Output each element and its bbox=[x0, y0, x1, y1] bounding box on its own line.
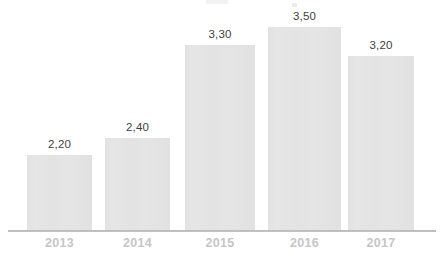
value-label-2015: 3,30 bbox=[185, 28, 255, 40]
value-label-2016: 3,50 bbox=[268, 10, 341, 22]
x-axis-line bbox=[8, 230, 436, 232]
category-label-2014: 2014 bbox=[105, 236, 170, 250]
plot-area: 2,20 2,40 3,30 3,50 3,20 bbox=[0, 0, 444, 231]
bar-2016[interactable] bbox=[268, 27, 341, 231]
bar-group-2016: 3,50 bbox=[268, 0, 341, 231]
category-label-2013: 2013 bbox=[27, 236, 92, 250]
category-label-2015: 2015 bbox=[185, 236, 255, 250]
value-label-2017: 3,20 bbox=[348, 39, 414, 51]
bar-2014[interactable] bbox=[105, 138, 170, 231]
bar-group-2013: 2,20 bbox=[27, 0, 92, 231]
category-label-2017: 2017 bbox=[348, 236, 414, 250]
bar-group-2017: 3,20 bbox=[348, 0, 414, 231]
bar-chart: 2,20 2,40 3,30 3,50 3,20 2013 2014 2015 … bbox=[0, 0, 444, 258]
category-label-2016: 2016 bbox=[268, 236, 341, 250]
bar-2017[interactable] bbox=[348, 56, 414, 231]
bar-2015[interactable] bbox=[185, 45, 255, 231]
value-label-2014: 2,40 bbox=[105, 121, 170, 133]
bar-group-2015: 3,30 bbox=[185, 0, 255, 231]
x-axis-category-labels: 2013 2014 2015 2016 2017 bbox=[0, 236, 444, 258]
bar-group-2014: 2,40 bbox=[105, 0, 170, 231]
bar-2013[interactable] bbox=[27, 155, 92, 231]
value-label-2013: 2,20 bbox=[27, 138, 92, 150]
